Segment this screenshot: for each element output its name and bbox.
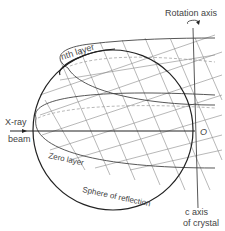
label-beam: beam bbox=[8, 134, 31, 144]
label-xray: X-ray bbox=[5, 117, 27, 127]
label-rotation-axis: Rotation axis bbox=[165, 8, 218, 18]
label-origin: O bbox=[200, 127, 207, 137]
label-zero-layer: Zero layer bbox=[48, 151, 85, 167]
beam-arrow-icon bbox=[22, 129, 27, 133]
rotation-crystal-diagram: Rotation axis nth layer X-ray beam O Zer… bbox=[0, 0, 225, 231]
rotation-axis-line bbox=[193, 28, 198, 208]
label-of-crystal: of crystal bbox=[183, 218, 219, 228]
label-sphere-of-reflection: Sphere of reflection bbox=[82, 185, 152, 208]
label-c-axis: c axis bbox=[185, 207, 209, 217]
